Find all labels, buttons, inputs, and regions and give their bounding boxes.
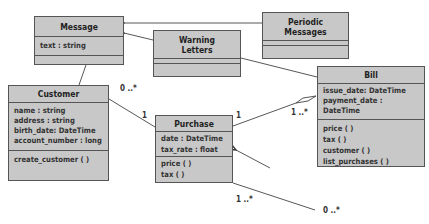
class-name-line: Warning — [154, 35, 240, 45]
class-operation: create_customer ( ) — [14, 155, 103, 165]
class-attribute: birth_date: DateTime — [14, 126, 103, 136]
class-operation: price ( ) — [161, 158, 227, 169]
navigable-association-into-purchase — [236, 150, 270, 168]
class-name-line: Letters — [154, 45, 240, 55]
class-name: Bill — [318, 67, 424, 84]
class-name: Warning Letters — [154, 31, 240, 59]
class-operation: tax ( ) — [323, 134, 419, 145]
class-message[interactable]: Message text : string — [34, 16, 124, 65]
class-operations: price ( ) tax ( ) customer ( ) list_purc… — [318, 120, 424, 169]
multiplicity-purchase-bill-end: 1 — [236, 111, 241, 120]
class-name: Periodic Messages — [263, 13, 348, 41]
multiplicity-purchase-bottom-far: 0 ..* — [323, 206, 340, 215]
class-name: Customer — [9, 86, 108, 103]
class-attribute: payment_date : DateTime — [323, 96, 419, 116]
class-operations — [35, 56, 123, 61]
class-operations: price ( ) tax ( ) — [156, 157, 232, 181]
class-operation: tax ( ) — [161, 169, 227, 180]
class-periodic-messages[interactable]: Periodic Messages — [262, 12, 349, 59]
class-attributes: date : DateTime tax_rate : float — [156, 132, 232, 157]
multiplicity-bill-end: 1 ..* — [291, 108, 308, 117]
class-bill[interactable]: Bill issue_date: DateTime payment_date :… — [317, 66, 425, 167]
aggregation-purchase-bill — [233, 103, 296, 126]
class-operation: customer ( ) — [323, 145, 419, 156]
multiplicity-purchase-customer-end: 1 — [142, 111, 147, 120]
class-attributes: name : string address : string birth_dat… — [9, 103, 108, 151]
class-operation: price ( ) — [323, 123, 419, 134]
class-operations — [154, 64, 240, 68]
class-customer[interactable]: Customer name : string address : string … — [8, 85, 109, 181]
class-warning-letters[interactable]: Warning Letters — [153, 30, 241, 77]
class-name-line: Periodic — [263, 17, 348, 27]
class-operations: create_customer ( ) — [9, 151, 108, 167]
aggregation-diamond — [296, 96, 316, 103]
class-attribute: issue_date: DateTime — [323, 86, 419, 96]
class-attribute: date : DateTime — [161, 133, 227, 144]
association-warning-bill — [241, 58, 317, 77]
association-message-customer — [79, 65, 86, 85]
association-customer-purchase — [109, 99, 155, 127]
class-purchase[interactable]: Purchase date : DateTime tax_rate : floa… — [155, 115, 233, 183]
class-attribute: address : string — [14, 116, 103, 126]
multiplicity-customer-end: 0 ..* — [120, 84, 137, 93]
class-attributes: issue_date: DateTime payment_date : Date… — [318, 84, 424, 120]
class-name-line: Messages — [263, 27, 348, 37]
class-name: Message — [35, 17, 123, 37]
class-operations — [263, 46, 348, 50]
class-attribute: account_number : long — [14, 136, 103, 146]
class-attribute: tax_rate : float — [161, 144, 227, 155]
multiplicity-purchase-bottom-near: 1 ..* — [236, 195, 253, 204]
class-name: Purchase — [156, 116, 232, 132]
generalization-warning-message — [124, 33, 153, 40]
class-operation: list_purchases ( ) — [323, 156, 419, 167]
class-attribute: text : string — [35, 37, 123, 56]
class-attribute: name : string — [14, 106, 103, 116]
